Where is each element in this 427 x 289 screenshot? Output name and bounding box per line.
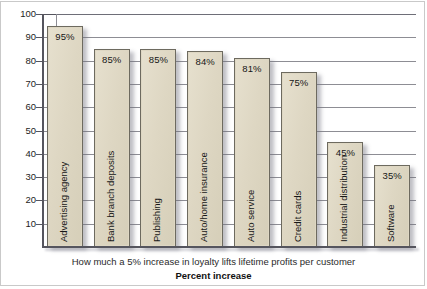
bar-value-label: 84% bbox=[188, 56, 222, 67]
y-axis-tick-label: 60 bbox=[2, 102, 36, 112]
y-axis-tick bbox=[36, 177, 42, 178]
y-axis-tick bbox=[36, 200, 42, 201]
y-axis-tick-labels: 100908070605040302010 bbox=[0, 0, 36, 289]
chart-caption: How much a 5% increase in loyalty lifts … bbox=[0, 256, 427, 267]
y-axis-tick-label: 40 bbox=[2, 149, 36, 159]
y-axis-tick-label: 70 bbox=[2, 79, 36, 89]
y-axis-tick-label: 20 bbox=[2, 195, 36, 205]
bar: 95%Advertising agency bbox=[47, 26, 83, 247]
y-axis-tick bbox=[36, 131, 42, 132]
y-axis-tick bbox=[36, 107, 42, 108]
y-axis-tick bbox=[36, 37, 42, 38]
bar-category-label: Advertising agency bbox=[59, 162, 69, 242]
bar-category-label: Industrial distribution bbox=[339, 155, 349, 242]
bar: 85%Bank branch deposits bbox=[94, 49, 130, 247]
bar-value-label: 95% bbox=[48, 31, 82, 42]
bar-category-label: Credit cards bbox=[293, 191, 303, 242]
y-axis-tick bbox=[36, 14, 42, 15]
bar: 85%Publishing bbox=[140, 49, 176, 247]
bar-series: 95%Advertising agency85%Bank branch depo… bbox=[42, 14, 416, 247]
y-axis-tick bbox=[36, 224, 42, 225]
bar: 75%Credit cards bbox=[281, 72, 317, 247]
y-axis-tick-label: 80 bbox=[2, 56, 36, 66]
bar: 84%Auto/home insurance bbox=[187, 51, 223, 247]
y-axis-tick-label: 90 bbox=[2, 32, 36, 42]
bar-category-label: Software bbox=[386, 205, 396, 243]
bar-value-label: 85% bbox=[95, 54, 129, 65]
bar: 81%Auto service bbox=[234, 58, 270, 247]
bar-value-label: 45% bbox=[328, 147, 362, 158]
x-axis-title: Percent increase bbox=[0, 270, 427, 281]
bar-category-label: Publishing bbox=[152, 198, 162, 242]
bar-category-label: Auto service bbox=[246, 190, 256, 242]
bar: 45%Industrial distribution bbox=[327, 142, 363, 247]
bar-category-label: Auto/home insurance bbox=[199, 152, 209, 242]
bar-category-label: Bank branch deposits bbox=[106, 151, 116, 242]
y-axis-tick bbox=[36, 154, 42, 155]
bar-value-label: 81% bbox=[235, 63, 269, 74]
bar-value-label: 75% bbox=[282, 77, 316, 88]
bar: 35%Software bbox=[374, 165, 410, 247]
bar-value-label: 35% bbox=[375, 170, 409, 181]
chart-figure: 100908070605040302010 95%Advertising age… bbox=[0, 0, 427, 289]
y-axis-tick-label: 30 bbox=[2, 172, 36, 182]
y-axis-tick bbox=[36, 61, 42, 62]
y-axis-tick-label: 10 bbox=[2, 219, 36, 229]
bar-value-label: 85% bbox=[141, 54, 175, 65]
y-axis-tick bbox=[36, 84, 42, 85]
baseline-shadow bbox=[45, 248, 419, 251]
y-axis-tick-label: 100 bbox=[2, 9, 36, 19]
x-axis-baseline bbox=[42, 246, 416, 248]
y-axis-tick-label: 50 bbox=[2, 126, 36, 136]
